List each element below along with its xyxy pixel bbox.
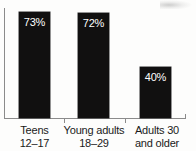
category-label-teens-line1: Teens — [20, 124, 48, 136]
y-axis-line — [4, 8, 5, 119]
category-label-young-adults-line1: Young adults — [64, 124, 125, 136]
bar-young-adults[interactable]: 72% — [78, 13, 109, 118]
bar-teens[interactable]: 73% — [19, 12, 50, 118]
category-label-young-adults-line2: 18–29 — [62, 137, 126, 150]
x-axis-tick-1 — [64, 119, 65, 123]
category-label-teens-line2: 12–17 — [4, 137, 65, 150]
category-label-teens: Teens 12–17 — [4, 124, 65, 149]
x-axis-tick-end — [185, 114, 186, 119]
bar-adults-30-and-older[interactable]: 40% — [140, 67, 171, 118]
category-label-young-adults: Young adults 18–29 — [62, 124, 126, 149]
category-label-adults-30-line1: Adults 30 — [135, 124, 179, 136]
category-label-adults-30-line2: and older — [126, 137, 188, 150]
bar-chart: 73% 72% 40% Teens 12–17 Young adults 18–… — [0, 0, 196, 151]
bar-value-adults-30-and-older: 40% — [140, 71, 171, 83]
bar-value-young-adults: 72% — [78, 17, 109, 29]
category-label-adults-30-and-older: Adults 30 and older — [126, 124, 188, 149]
x-axis-line — [4, 118, 186, 119]
bar-value-teens: 73% — [19, 16, 50, 28]
x-axis-tick-2 — [125, 119, 126, 123]
